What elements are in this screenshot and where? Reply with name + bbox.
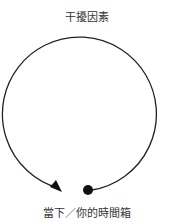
start-dot-icon: [83, 185, 93, 195]
bottom-label: 當下／你的時間箱: [0, 204, 174, 220]
arrowhead-icon: [50, 180, 62, 192]
cycle-diagram: [0, 0, 174, 224]
cycle-arc: [2, 37, 156, 190]
